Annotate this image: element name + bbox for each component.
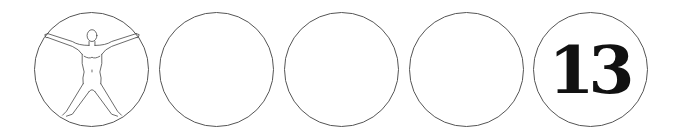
empty-circle <box>409 12 524 127</box>
empty-circle <box>284 12 399 127</box>
human-figure-icon <box>35 13 148 126</box>
number-label: 13 <box>534 13 647 126</box>
number-circle: 13 <box>533 12 648 127</box>
empty-circle <box>159 12 274 127</box>
circle-figure <box>34 12 149 127</box>
